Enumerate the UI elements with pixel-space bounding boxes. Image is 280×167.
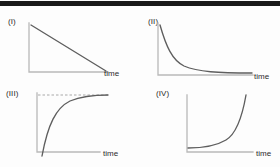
figure-root: (I) time (II) time (III) time (IV): [0, 0, 280, 167]
x-axis-label-4: time: [256, 150, 271, 158]
curve-saturating-increase: [42, 95, 108, 156]
curve-exponential-decay: [160, 25, 252, 73]
x-axis-label-2: time: [254, 73, 269, 81]
graph-panel-3: (III) time: [0, 84, 140, 167]
x-axis-label-3: time: [103, 150, 118, 158]
graph-panel-1: (I) time: [0, 10, 140, 84]
graph-panel-2: (II) time: [140, 10, 280, 84]
top-divider-rule: [0, 1, 280, 6]
curve-linear-decrease: [31, 25, 106, 71]
graph-panel-4: (IV) time: [140, 84, 280, 167]
x-axis-label-1: time: [104, 70, 119, 78]
curve-exponential-growth: [188, 95, 246, 148]
plot-svg-3: [0, 84, 140, 167]
axes-2: [158, 23, 253, 75]
